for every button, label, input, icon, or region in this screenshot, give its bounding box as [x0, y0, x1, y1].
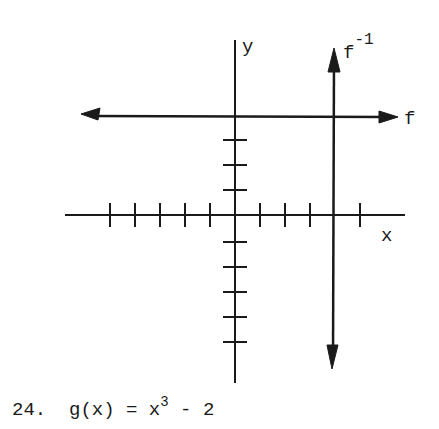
exponent: 3: [160, 394, 168, 410]
graph: y x f f-1: [0, 0, 439, 429]
y-axis-label: y: [242, 36, 253, 58]
inverse-exponent: -1: [354, 31, 373, 49]
line-f: [90, 116, 390, 117]
constant-term: - 2: [180, 399, 214, 421]
problem-statement: 24. g(x) = x3 - 2: [12, 396, 214, 421]
line-f-right-arrowhead: [379, 111, 398, 123]
line-f-inverse-top-arrowhead: [328, 48, 340, 72]
base: x: [149, 399, 160, 421]
equals-sign: =: [126, 399, 137, 421]
line-f-left-arrowhead: [81, 108, 100, 120]
function-name: g(x): [69, 399, 115, 421]
line-f-inverse-label: f-1: [343, 31, 374, 64]
line-f-inverse-bottom-arrowhead: [327, 345, 338, 369]
line-f-inverse: [333, 58, 334, 358]
x-axis-label: x: [381, 225, 392, 247]
line-f-label: f: [404, 108, 415, 130]
problem-number: 24.: [12, 399, 46, 421]
